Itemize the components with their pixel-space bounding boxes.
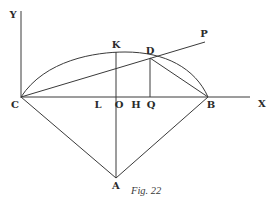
- label-p: P: [200, 29, 208, 39]
- label-l: L: [94, 100, 101, 110]
- label-x: X: [258, 99, 266, 109]
- line-ab: [116, 97, 208, 178]
- label-y: Y: [9, 10, 16, 20]
- arc-ckb: [21, 52, 208, 97]
- line-cp: [21, 42, 205, 97]
- figure-caption: Fig. 22: [131, 185, 161, 196]
- label-h: H: [131, 100, 140, 110]
- label-c: C: [11, 100, 19, 110]
- chord-db: [150, 58, 208, 97]
- label-a: A: [112, 181, 120, 191]
- label-d: D: [146, 46, 155, 56]
- label-b: B: [207, 100, 215, 110]
- label-q: Q: [147, 100, 156, 110]
- line-ca: [21, 97, 116, 178]
- label-k: K: [112, 40, 121, 50]
- geometry-figure: Y X K D P C L O H Q B A Fig. 22: [0, 0, 272, 207]
- label-o: O: [115, 100, 124, 110]
